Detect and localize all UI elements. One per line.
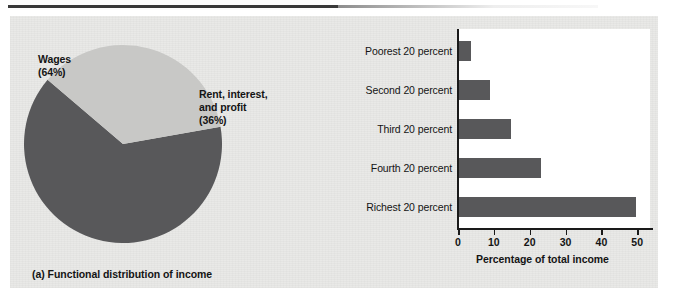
bar-row: Fourth 20 percent bbox=[458, 148, 648, 187]
bars-area: Poorest 20 percentSecond 20 percentThird… bbox=[458, 32, 648, 226]
pie-label-rent-interest-profit: Rent, interest, and profit (36%) bbox=[199, 88, 268, 127]
bar bbox=[458, 80, 490, 100]
bar-category-label: Second 20 percent bbox=[366, 84, 452, 96]
x-axis-line bbox=[457, 228, 653, 230]
pie-label-wages-percent: (64%) bbox=[38, 66, 71, 79]
x-axis-tick-label: 40 bbox=[596, 236, 608, 248]
bar-row: Poorest 20 percent bbox=[458, 32, 648, 71]
figure-root: Wages (64%) Rent, interest, and profit (… bbox=[0, 0, 682, 302]
pie-label-rent-percent: (36%) bbox=[199, 114, 268, 127]
bar-row: Second 20 percent bbox=[458, 71, 648, 110]
x-axis-tick bbox=[637, 230, 639, 235]
caption-panel-a: (a) Functional distribution of income bbox=[32, 268, 212, 280]
x-axis-tick bbox=[566, 230, 568, 235]
bar-category-label: Richest 20 percent bbox=[366, 201, 452, 213]
pie-label-wages-name: Wages bbox=[38, 53, 71, 66]
x-axis-title: Percentage of total income bbox=[476, 253, 609, 265]
figure-panel: Wages (64%) Rent, interest, and profit (… bbox=[10, 16, 658, 288]
bar-category-label: Poorest 20 percent bbox=[365, 45, 452, 57]
y-axis-line bbox=[457, 29, 459, 229]
x-axis-tick-label: 10 bbox=[488, 236, 500, 248]
bar bbox=[458, 119, 511, 139]
x-axis-tick-label: 0 bbox=[455, 236, 461, 248]
x-axis-tick-label: 50 bbox=[631, 236, 643, 248]
top-rule-divider bbox=[8, 5, 338, 8]
x-axis-tick bbox=[458, 230, 460, 235]
bar-category-label: Third 20 percent bbox=[377, 123, 452, 135]
pie-label-wages: Wages (64%) bbox=[38, 53, 71, 79]
bar bbox=[458, 158, 541, 178]
pie-label-rent-line1: Rent, interest, bbox=[199, 88, 268, 101]
pie-label-rent-line2: and profit bbox=[199, 101, 268, 114]
bar-category-label: Fourth 20 percent bbox=[371, 162, 452, 174]
panel-b-bar-chart: Poorest 20 percentSecond 20 percentThird… bbox=[340, 16, 658, 288]
top-rule-fade bbox=[338, 5, 598, 8]
panel-a-pie-chart: Wages (64%) Rent, interest, and profit (… bbox=[10, 16, 340, 288]
x-axis-tick bbox=[494, 230, 496, 235]
x-axis-tick bbox=[601, 230, 603, 235]
x-axis-tick bbox=[530, 230, 532, 235]
bar-row: Third 20 percent bbox=[458, 110, 648, 149]
x-axis-tick-label: 30 bbox=[560, 236, 572, 248]
bar bbox=[458, 197, 636, 217]
x-axis-tick-label: 20 bbox=[524, 236, 536, 248]
bar bbox=[458, 41, 471, 61]
bar-row: Richest 20 percent bbox=[458, 187, 648, 226]
